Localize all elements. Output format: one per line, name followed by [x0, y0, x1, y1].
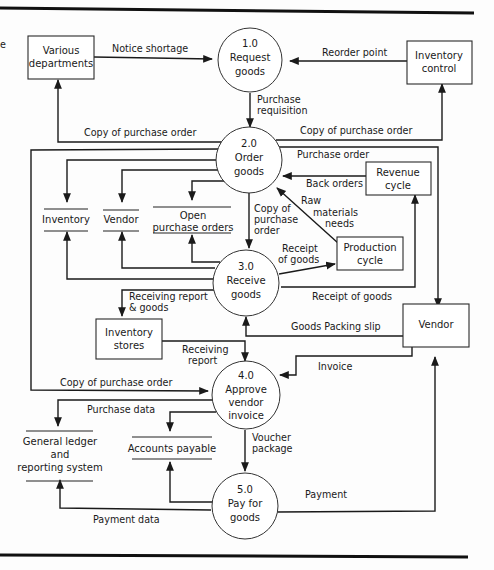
process-3-line1: Receive: [226, 275, 265, 286]
flow-label-payment: Payment: [305, 489, 347, 500]
entity-inventory-stores-line2: stores: [114, 340, 145, 351]
flow-label-copy-po-down-1: Copy of: [254, 203, 291, 214]
flow-label-reorder-point: Reorder point: [322, 47, 387, 58]
flow-label-raw-materials-3: needs: [325, 218, 354, 229]
store-inventory: Inventory: [42, 209, 90, 231]
flow-receipt-goods-production: [279, 264, 335, 274]
process-2-number: 2.0: [241, 138, 257, 149]
store-general-ledger-line2: and: [51, 449, 70, 460]
process-4-approve-vendor-invoice: 4.0 Approve vendor invoice: [212, 361, 280, 429]
entity-various-departments-line1: Various: [43, 45, 80, 56]
flow-approve-accounts-payable: [170, 412, 216, 431]
flow-label-purchase-requisition-1: Purchase: [257, 94, 301, 105]
entity-inventory-stores: Inventory stores: [96, 319, 162, 359]
process-4-line1: Approve: [225, 384, 267, 395]
flow-order-vendor-store: [122, 170, 221, 202]
entity-inventory-stores-line1: Inventory: [105, 327, 153, 338]
flow-label-back-orders: Back orders: [306, 178, 363, 189]
store-open-purchase-orders: Open purchase orders: [153, 207, 234, 233]
entity-revenue-cycle-line1: Revenue: [376, 167, 420, 178]
store-general-ledger-line3: reporting system: [17, 462, 102, 473]
flow-label-receiving-report-goods-1: Receiving report: [129, 291, 208, 302]
entity-various-departments-line2: departments: [29, 58, 93, 69]
flow-label-receipt-goods-rev: Receipt of goods: [312, 291, 392, 302]
store-inventory-label: Inventory: [42, 214, 90, 225]
flow-label-purchase-data: Purchase data: [87, 404, 155, 415]
process-5-line2: goods: [230, 512, 260, 523]
flow-receive-inventory: [67, 232, 213, 279]
entity-vendor: Vendor: [403, 304, 469, 347]
process-2-line1: Order: [235, 152, 264, 163]
flow-label-receiving-report-2: report: [188, 355, 218, 366]
flow-label-purchase-requisition-2: requisition: [257, 105, 308, 116]
process-4-line2: vendor: [229, 397, 265, 408]
entity-production-cycle: Production cycle: [337, 237, 403, 270]
flow-label-purchase-order: Purchase order: [297, 149, 369, 160]
flow-payment-data: [60, 480, 211, 510]
flow-label-notice-shortage: Notice shortage: [112, 43, 188, 54]
flow-label-copy-po-left: Copy of purchase order: [84, 127, 196, 138]
flow-label-copy-po-down-2: purchase: [254, 214, 298, 225]
top-rule: [0, 8, 474, 13]
store-general-ledger: General ledger and reporting system: [17, 431, 102, 481]
flow-order-open-po: [192, 181, 226, 200]
flow-label-voucher-package-2: package: [252, 443, 293, 454]
flow-receive-open-po: [192, 235, 220, 262]
store-open-po-line1: Open: [180, 210, 207, 221]
process-4-line3: invoice: [228, 410, 264, 421]
process-5-number: 5.0: [237, 484, 253, 495]
flow-label-receiving-report-1: Receiving: [182, 344, 229, 355]
entity-revenue-cycle-line2: cycle: [385, 180, 411, 191]
entity-revenue-cycle: Revenue cycle: [366, 162, 431, 195]
process-5-line1: Pay for: [228, 498, 263, 509]
data-flow-diagram: e Notice shortage Reorder point Purchase…: [0, 0, 494, 570]
store-vendor: Vendor: [103, 210, 139, 231]
flow-label-invoice: Invoice: [318, 361, 352, 372]
process-3-line2: goods: [231, 289, 261, 300]
process-3-number: 3.0: [238, 261, 254, 272]
flow-label-voucher-package-1: Voucher: [252, 432, 291, 443]
process-1-number: 1.0: [242, 38, 258, 49]
process-1-line1: Request: [230, 52, 271, 63]
flow-label-receipt-goods-prod-2: of goods: [278, 254, 319, 265]
flow-label-copy-po-down-3: order: [254, 225, 280, 236]
entity-inventory-control: Inventory control: [407, 41, 472, 84]
flow-label-payment-data: Payment data: [93, 514, 160, 525]
flow-label-goods-packing-slip: Goods Packing slip: [291, 321, 381, 332]
entity-production-cycle-line2: cycle: [357, 255, 383, 266]
store-open-po-line2: purchase orders: [153, 222, 234, 233]
flow-label-raw-materials-2: materials: [313, 207, 358, 218]
process-4-number: 4.0: [238, 370, 254, 381]
process-3-receive-goods: 3.0 Receive goods: [213, 250, 279, 316]
flow-payment: [277, 357, 435, 512]
store-vendor-label: Vendor: [103, 214, 139, 225]
store-accounts-payable: Accounts payable: [128, 437, 217, 459]
process-1-line2: goods: [235, 66, 265, 77]
store-accounts-payable-label: Accounts payable: [128, 443, 217, 454]
flow-label-receipt-goods-prod-1: Receipt: [282, 243, 318, 254]
flow-pay-accounts-payable: [170, 462, 214, 502]
bottom-rule: [0, 555, 468, 557]
flow-label-raw-materials-1: Raw: [301, 195, 321, 206]
process-5-pay-for-goods: 5.0 Pay for goods: [212, 473, 278, 539]
process-2-line2: goods: [234, 166, 264, 177]
margin-fragment: e: [0, 39, 6, 50]
entity-various-departments: Various departments: [28, 36, 94, 79]
entity-vendor-line1: Vendor: [418, 319, 454, 330]
flow-label-copy-po-right: Copy of purchase order: [300, 125, 412, 136]
process-1-request-goods: 1.0 Request goods: [218, 28, 282, 92]
store-general-ledger-line1: General ledger: [23, 436, 98, 447]
process-2-order-goods: 2.0 Order goods: [216, 127, 282, 193]
entity-inventory-control-line1: Inventory: [415, 50, 463, 61]
entity-production-cycle-line1: Production: [343, 242, 396, 253]
flow-label-receiving-report-goods-2: & goods: [129, 302, 168, 313]
flow-label-copy-po-4: Copy of purchase order: [60, 377, 172, 388]
entity-inventory-control-line2: control: [422, 63, 457, 74]
flow-notice-shortage: [94, 57, 212, 59]
